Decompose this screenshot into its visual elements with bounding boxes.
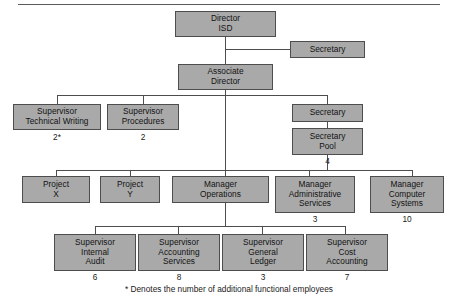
node-supervisor-internal-audit[interactable]: Supervisor Internal Audit: [54, 234, 136, 271]
bus-row-supervisors-top: [57, 95, 328, 96]
node-director-isd[interactable]: Director ISD: [175, 11, 276, 37]
node-line: Systems: [391, 199, 423, 209]
node-secretary-associate[interactable]: Secretary: [292, 104, 363, 122]
node-project-y[interactable]: Project Y: [100, 176, 160, 203]
node-line: Accounting: [326, 257, 367, 267]
node-line: Technical Writing: [26, 117, 89, 127]
node-supervisor-general-ledger[interactable]: Supervisor General Ledger: [222, 234, 304, 271]
node-project-x[interactable]: Project X: [22, 176, 90, 203]
node-supervisor-cost-accounting[interactable]: Supervisor Cost Accounting: [306, 234, 388, 271]
count-supervisor-accounting-services: 8: [138, 273, 220, 282]
node-line: Secretary: [310, 45, 346, 55]
count-manager-administrative-services: 3: [275, 215, 355, 224]
node-line: ISD: [219, 24, 233, 34]
drop-sup-cost-accounting: [345, 226, 346, 234]
connector-director-to-secretary: [225, 49, 290, 50]
drop-sup-general-ledger: [262, 226, 263, 234]
node-supervisor-procedures[interactable]: Supervisor Procedures: [107, 104, 179, 130]
node-line: Secretary: [310, 108, 346, 118]
count-supervisor-internal-audit: 6: [54, 273, 136, 282]
node-supervisor-accounting-services[interactable]: Supervisor Accounting Services: [138, 234, 220, 271]
bus-row-managers: [56, 170, 412, 171]
drop-sup-internal-audit: [95, 226, 96, 234]
org-chart-canvas: Director ISD Secretary Associate Directo…: [0, 0, 458, 298]
node-line: Procedures: [122, 117, 165, 127]
node-secretary-pool[interactable]: Secretary Pool: [292, 128, 363, 155]
node-manager-administrative-services[interactable]: Manager Administrative Services: [275, 176, 355, 213]
trunk-associate-to-manager-operations: [225, 95, 226, 176]
node-manager-operations[interactable]: Manager Operations: [172, 176, 269, 203]
count-supervisor-technical-writing: 2*: [13, 133, 101, 142]
count-supervisor-general-ledger: 3: [222, 273, 304, 282]
node-manager-computer-systems[interactable]: Manager Computer Systems: [370, 176, 444, 213]
node-supervisor-technical-writing[interactable]: Supervisor Technical Writing: [13, 104, 101, 130]
node-secretary-director[interactable]: Secretary: [290, 41, 365, 58]
node-line: Services: [163, 257, 195, 267]
node-line: Ledger: [250, 257, 276, 267]
count-manager-computer-systems: 10: [370, 215, 444, 224]
node-line: Services: [299, 199, 331, 209]
node-line: Director: [211, 77, 240, 87]
node-line: Y: [127, 190, 133, 200]
count-supervisor-cost-accounting: 7: [306, 273, 388, 282]
count-secretary-pool: 4: [292, 157, 363, 166]
top-divider-rule: [18, 4, 440, 5]
drop-sup-procedures: [143, 95, 144, 104]
node-line: Pool: [319, 142, 336, 152]
connector-director-to-associate: [225, 37, 226, 64]
node-line: Audit: [85, 257, 104, 267]
node-line: X: [53, 190, 59, 200]
bus-row-bottom-supervisors: [95, 226, 345, 227]
node-line: Operations: [200, 190, 241, 200]
drop-sup-accounting-services: [178, 226, 179, 234]
count-supervisor-procedures: 2: [107, 133, 179, 142]
drop-sup-technical-writing: [57, 95, 58, 104]
connector-manager-ops-to-bottom-bus: [225, 203, 226, 226]
node-associate-director[interactable]: Associate Director: [178, 64, 273, 90]
chart-footnote: * Denotes the number of additional funct…: [0, 284, 458, 294]
drop-secretary-2: [327, 95, 328, 104]
